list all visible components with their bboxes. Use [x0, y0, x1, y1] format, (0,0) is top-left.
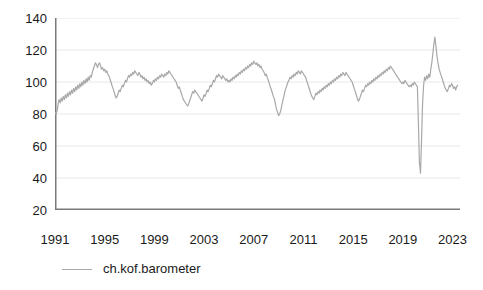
x-tick-label: 1991 [41, 233, 70, 247]
chart-container: 14012010080604020 1991199519992003200720… [0, 0, 483, 290]
plot-svg [55, 18, 460, 210]
plot-area [55, 18, 460, 210]
y-tick-label: 140 [0, 12, 47, 25]
x-tick-label: 2003 [190, 233, 219, 247]
x-tick-label: 2007 [239, 233, 268, 247]
y-tick-label: 100 [0, 76, 47, 89]
x-tick-label: 2023 [438, 233, 467, 247]
y-tick-label: 20 [0, 204, 47, 217]
legend-label-ch-kof-barometer: ch.kof.barometer [103, 262, 201, 276]
y-tick-label: 40 [0, 172, 47, 185]
x-tick-label: 1995 [90, 233, 119, 247]
gridlines [55, 18, 460, 210]
y-tick-label: 120 [0, 44, 47, 57]
y-axis: 14012010080604020 [0, 18, 47, 210]
legend-swatch-ch-kof-barometer [62, 269, 92, 270]
legend: ch.kof.barometer [62, 262, 201, 276]
x-tick-label: 2011 [289, 233, 317, 247]
x-tick-label: 2015 [339, 233, 368, 247]
series-line-ch-kof-barometer [55, 37, 458, 173]
y-tick-label: 80 [0, 108, 47, 121]
y-tick-label: 60 [0, 140, 47, 153]
x-axis: 199119951999200320072011201520192023 [55, 233, 460, 251]
x-tick-label: 2019 [388, 233, 417, 247]
x-tick-label: 1999 [140, 233, 169, 247]
